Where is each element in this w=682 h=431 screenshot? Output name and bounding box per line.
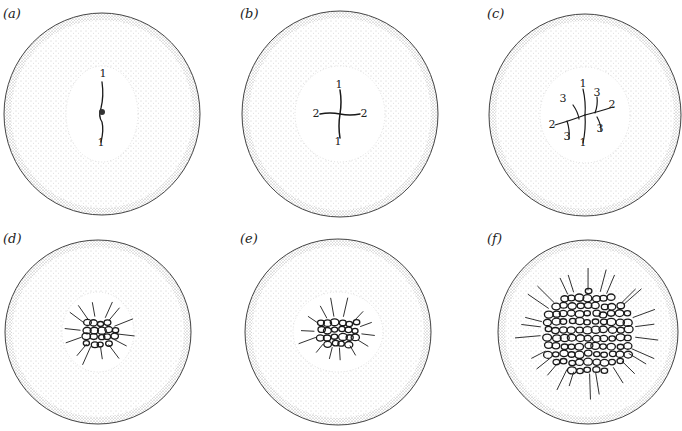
section-panel-f — [498, 240, 678, 424]
pole-number: 2 — [361, 107, 368, 120]
section-panel-a: 11 — [4, 13, 200, 215]
pole-number: 1 — [580, 77, 587, 90]
section-panel-e — [245, 239, 431, 425]
pole-number: 1 — [580, 136, 587, 149]
panel-label-f: (f) — [487, 231, 502, 246]
section-panel-b: 1122 — [242, 11, 438, 217]
pole-number: 2 — [549, 118, 556, 131]
panel-label-c: (c) — [487, 6, 504, 21]
clear-zone — [293, 292, 383, 372]
pole-number: 3 — [594, 86, 601, 99]
pole-number: 1 — [98, 136, 105, 149]
section-panel-d — [5, 240, 191, 424]
figure-canvas: 11112211223333 — [0, 0, 682, 431]
panel-label-a: (a) — [3, 6, 21, 21]
panel-label-e: (e) — [240, 231, 258, 246]
pole-number: 2 — [609, 98, 616, 111]
pole-number: 3 — [560, 92, 567, 105]
section-panel-c: 11223333 — [489, 14, 681, 216]
pole-number: 3 — [564, 130, 571, 143]
panel-label-d: (d) — [3, 231, 21, 246]
pole-number: 1 — [335, 135, 342, 148]
pole-number: 1 — [100, 67, 107, 80]
pole-number: 1 — [336, 78, 343, 91]
pole-number: 2 — [313, 107, 320, 120]
panel-label-b: (b) — [240, 6, 258, 21]
pole-number: 3 — [597, 122, 604, 135]
